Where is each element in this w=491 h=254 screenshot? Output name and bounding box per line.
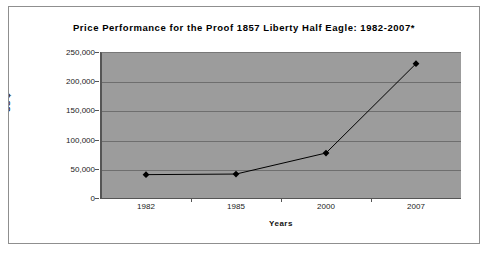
y-axis-title: US $ [8, 93, 12, 112]
x-axis-tick-label: 2007 [407, 202, 425, 211]
x-axis-tick [281, 198, 282, 202]
x-axis-tick [371, 198, 372, 202]
y-axis-tick-labels: 050,000100,000150,000200,000250,000 [37, 52, 95, 198]
y-axis-tick [95, 140, 99, 141]
y-axis-tick [95, 110, 99, 111]
y-axis-tick [95, 169, 99, 170]
y-axis-tick [95, 52, 99, 53]
x-axis-title: Years [101, 219, 461, 228]
y-axis-tick-label: 150,000 [39, 106, 95, 115]
x-axis-tick-label: 2000 [317, 202, 335, 211]
chart-frame: Price Performance for the Proof 1857 Lib… [8, 6, 480, 244]
y-axis-tick [95, 198, 99, 199]
x-axis-tick-label: 1985 [227, 202, 245, 211]
y-axis-tick-label: 0 [39, 194, 95, 203]
y-axis-tick-label: 100,000 [39, 135, 95, 144]
y-axis-tick [95, 81, 99, 82]
x-axis-tick-label: 1982 [137, 202, 155, 211]
data-point-marker [143, 171, 150, 178]
y-axis-tick-label: 200,000 [39, 77, 95, 86]
x-axis-tick [191, 198, 192, 202]
series-line [146, 64, 416, 175]
chart-title: Price Performance for the Proof 1857 Lib… [9, 22, 479, 33]
y-axis-tick-label: 250,000 [39, 48, 95, 57]
data-point-marker [233, 171, 240, 178]
x-axis-tick-labels: 1982198520002007 [101, 202, 461, 218]
series-line-price [101, 52, 461, 198]
y-axis-tick-label: 50,000 [39, 164, 95, 173]
